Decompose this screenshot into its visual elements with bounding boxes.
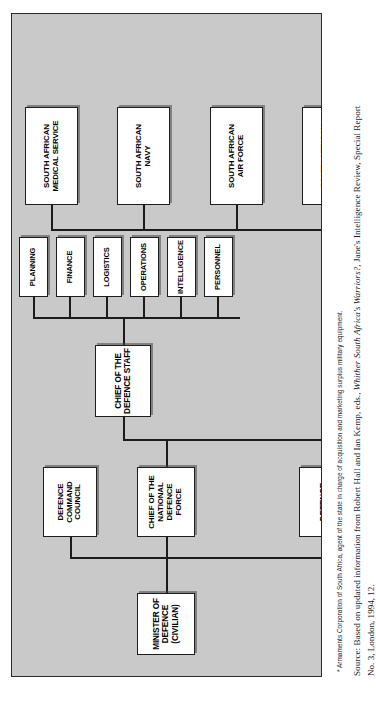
node-intelligence[interactable]: INTELLIGENCE	[167, 237, 196, 297]
node-defence-secretary[interactable]: DEFENCE SECRETARY	[299, 467, 323, 537]
node-line-1: MINISTER OF DEFENCE	[152, 596, 170, 652]
connector-spine-level1	[70, 557, 323, 559]
connector-service-medical	[51, 205, 53, 231]
connector-spine-to-cndf	[166, 537, 168, 559]
connector-staff-spine	[33, 317, 240, 319]
node-label: PERSONNEL	[214, 244, 222, 290]
node-chief-of-defence-staff[interactable]: CHIEF OF THE DEFENCE STAFF	[95, 345, 151, 417]
node-line-1: DEFENCE	[318, 478, 322, 527]
node-minister-of-defence[interactable]: MINISTER OF DEFENCE (CIVILIAN)	[137, 593, 195, 655]
node-south-african-air-force[interactable]: SOUTH AFRICAN AIR FORCE	[210, 107, 263, 205]
node-finance[interactable]: FINANCE	[56, 237, 85, 297]
node-label: INTELLIGENCE	[177, 240, 185, 294]
node-south-african-army[interactable]: SOUTH AFRICAN ARMY	[302, 107, 323, 205]
connector-service-airforce	[236, 205, 238, 231]
node-line-2: (CIVILIAN)	[170, 596, 179, 652]
footnote-label: * Armaments Corporation of South Africa,…	[336, 310, 343, 672]
connector-staff-operations	[143, 297, 145, 319]
node-line-2: DEFENCE STAFF	[123, 348, 132, 414]
connector-minister-to-spine	[166, 557, 168, 593]
source-line-2-label: No. 3, London, 1994, 12.	[366, 584, 376, 676]
connector-staff-planning	[33, 297, 35, 319]
connector-cndf-spine	[123, 439, 323, 441]
source-suffix: , Jane's Intelligence Review, Special Re…	[352, 106, 362, 267]
node-line-2: DEFENCE FORCE	[166, 470, 184, 534]
connector-to-cds	[123, 417, 125, 441]
node-line-1: CHIEF OF THE	[113, 348, 122, 414]
node-line-1: SOUTH AFRICAN	[227, 124, 236, 188]
connector-cndf-out	[166, 439, 168, 467]
node-planning[interactable]: PLANNING	[19, 237, 48, 297]
chart-panel: MINISTER OF DEFENCE (CIVILIAN) DEFENCE C…	[11, 13, 322, 677]
node-line-2: COUNCIL	[74, 470, 83, 534]
node-operations[interactable]: OPERATIONS	[130, 237, 159, 297]
node-personnel[interactable]: PERSONNEL	[204, 237, 233, 297]
node-south-african-navy[interactable]: SOUTH AFRICAN NAVY	[117, 107, 170, 205]
source-prefix: Source: Based on updated information fro…	[352, 390, 362, 676]
node-label: PLANNING	[29, 248, 37, 286]
node-chief-national-defence-force[interactable]: CHIEF OF THE NATIONAL DEFENCE FORCE	[137, 467, 195, 537]
node-line-1: DEFENCE COMMAND	[56, 470, 74, 534]
node-defence-command-council[interactable]: DEFENCE COMMAND COUNCIL	[43, 467, 97, 537]
node-line-2: NAVY	[143, 124, 152, 188]
footnote: * Armaments Corporation of South Africa,…	[336, 310, 343, 672]
connector-staff-logistics	[106, 297, 108, 319]
node-label: OPERATIONS	[140, 243, 148, 291]
connector-service-navy	[143, 205, 145, 231]
diagram-canvas: MINISTER OF DEFENCE (CIVILIAN) DEFENCE C…	[13, 15, 321, 675]
connector-services-spine	[51, 229, 323, 231]
source-title: Whither South Africa's Warriors?	[352, 267, 362, 391]
node-logistics[interactable]: LOGISTICS	[93, 237, 122, 297]
source-line-1: Source: Based on updated information fro…	[352, 106, 362, 676]
node-label: FINANCE	[66, 251, 74, 284]
node-line-1: SOUTH AFRICAN	[134, 124, 143, 188]
connector-cds-out	[123, 317, 125, 345]
node-line-1: SOUTH AFRICAN	[319, 124, 322, 188]
node-line-2: AIR FORCE	[236, 124, 245, 188]
connector-spine-to-dcc	[70, 537, 72, 559]
source-line-2: No. 3, London, 1994, 12.	[366, 584, 376, 676]
node-line-1: CHIEF OF THE NATIONAL	[148, 470, 166, 534]
connector-staff-intelligence	[180, 297, 182, 319]
node-south-african-medical-service[interactable]: SOUTH AFRICAN MEDICAL SERVICE	[25, 107, 78, 205]
node-line-1: SOUTH AFRICAN	[42, 121, 51, 192]
connector-staff-finance	[69, 297, 71, 319]
node-label: LOGISTICS	[103, 247, 111, 287]
connector-staff-personnel	[217, 297, 219, 319]
node-line-2: MEDICAL SERVICE	[51, 121, 60, 192]
